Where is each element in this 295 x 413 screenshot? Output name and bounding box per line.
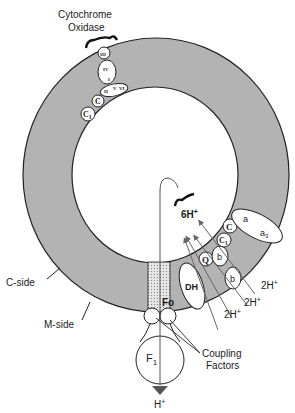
oxidase-title-2: Oxidase <box>68 22 105 33</box>
q-label: Q <box>202 255 209 265</box>
subunit-iv-i <box>98 60 116 84</box>
b-label-1: b <box>217 252 222 262</box>
h2-label-3: 2H+ <box>224 308 241 320</box>
coupling-factor-left <box>144 308 160 324</box>
coupling-label-1: Coupling <box>202 348 241 359</box>
h2-label-2: 2H+ <box>244 296 261 308</box>
h6-label: 6H+ <box>181 208 198 220</box>
coupling-factor-right <box>160 308 176 324</box>
c-label-left: C <box>95 97 101 106</box>
h2-label-1: 2H+ <box>261 279 278 291</box>
arrow-down-icon <box>152 386 168 395</box>
m-side-label: M-side <box>44 319 74 330</box>
dh-label: DH <box>185 282 198 292</box>
coupling-label-2: Factors <box>206 360 239 371</box>
mitochondrial-membrane-diagram: Fo F1 H+ Coupling Factors DH Q b b C1 C … <box>0 0 295 413</box>
i-label: I <box>108 77 110 82</box>
m-side-pointer <box>82 302 90 320</box>
c-side-label: C-side <box>6 277 35 288</box>
h-plus-return: H+ <box>154 398 165 410</box>
bracket-6h <box>175 194 194 206</box>
fo-label: Fo <box>162 297 174 308</box>
v-label: V <box>113 86 117 91</box>
ii-label: II <box>104 89 108 94</box>
iii-label: III <box>100 52 106 57</box>
c-label-right: C <box>226 222 233 232</box>
vi-label: VI <box>119 86 125 91</box>
c-side-pointer <box>47 268 60 279</box>
oxidase-title-1: Cytochrome <box>58 9 112 20</box>
a-label: a <box>243 214 248 224</box>
b-label-2: b <box>230 274 235 284</box>
iv-label: IV <box>103 67 109 72</box>
